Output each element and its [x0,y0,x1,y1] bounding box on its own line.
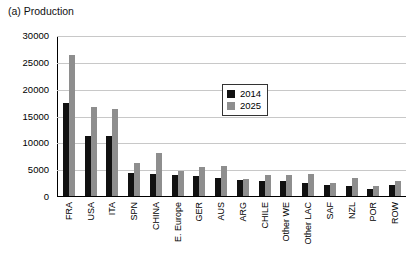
legend-item: 2025 [227,100,261,112]
x-tick-label: USA [86,202,95,221]
bar-group [297,36,319,196]
y-tick-label: 5000 [28,165,49,175]
legend-item: 2014 [227,88,261,100]
x-tick-label: FRA [64,202,73,220]
bar-group [167,36,189,196]
x-tick-label: SAF [325,202,334,220]
y-tick-label: 25000 [23,58,49,68]
x-tick: USA [80,200,102,272]
x-tick-label: GER [195,202,204,222]
x-tick: SPN [123,200,145,272]
bar-row-2025 [395,181,401,196]
bar-group [123,36,145,196]
y-axis-tick-labels: 050001000015000200002500030000 [0,36,53,197]
bar-group [232,36,254,196]
bar-group [384,36,406,196]
legend-swatch-2025 [227,102,235,110]
x-tick: ARG [232,200,254,272]
x-tick: CHILE [254,200,276,272]
production-bar-chart-figure: (a) Production 0500010000150002000025000… [0,0,418,275]
bar-group [210,36,232,196]
x-tick-label: E. Europe [173,202,182,242]
x-tick-label: POR [369,202,378,222]
bar-group [319,36,341,196]
bar-ger-2025 [199,167,205,196]
bar-group [363,36,385,196]
x-tick-label: AUS [217,202,226,221]
x-tick: ROW [384,200,406,272]
y-tick-label: 10000 [23,139,49,149]
x-tick: Other LAC [297,200,319,272]
page-title: (a) Production [8,5,74,17]
bar-group [341,36,363,196]
x-tick-label: ROW [391,202,400,224]
bar-group [80,36,102,196]
y-tick-label: 30000 [23,31,49,41]
bar-group [145,36,167,196]
bar-arg-2025 [243,179,249,196]
bar-saf-2025 [330,183,336,196]
x-axis-tick-labels: FRAUSAITASPNCHINAE. EuropeGERAUSARGCHILE… [58,200,406,272]
bar-e-europe-2025 [178,171,184,196]
bar-group [276,36,298,196]
bar-aus-2025 [221,166,227,196]
x-tick: E. Europe [167,200,189,272]
x-tick-label: CHINA [151,202,160,230]
bar-chile-2025 [265,175,271,196]
plot-area [57,36,406,197]
x-tick-label: ARG [238,202,247,222]
bar-other-lac-2025 [308,174,314,196]
x-tick-label: NZL [347,202,356,219]
x-tick-label: Other WE [282,202,291,242]
bar-other-we-2025 [286,175,292,196]
x-tick-label: Other LAC [304,202,313,245]
bar-groups [58,36,406,196]
x-tick: NZL [341,200,363,272]
x-tick: SAF [319,200,341,272]
x-tick: POR [363,200,385,272]
x-tick: ITA [102,200,124,272]
bar-nzl-2025 [352,178,358,196]
x-axis-line [57,196,406,197]
y-tick-label: 15000 [23,112,49,122]
bar-spn-2025 [134,163,140,196]
bar-group [102,36,124,196]
x-tick-label: ITA [108,202,117,215]
chart-legend: 20142025 [222,84,268,116]
bar-ita-2025 [112,109,118,196]
y-tick-label: 20000 [23,85,49,95]
bar-usa-2025 [91,107,97,196]
x-tick-label: SPN [130,202,139,221]
bar-group [254,36,276,196]
y-tick-label: 0 [44,192,49,202]
bar-por-2025 [373,186,379,196]
legend-label-2025: 2025 [240,101,261,111]
x-tick-label: CHILE [260,202,269,229]
bar-fra-2025 [69,55,75,196]
x-tick: FRA [58,200,80,272]
bar-group [58,36,80,196]
legend-label-2014: 2014 [240,89,261,99]
x-tick: Other WE [276,200,298,272]
legend-swatch-2014 [227,90,235,98]
x-tick: CHINA [145,200,167,272]
x-tick: GER [189,200,211,272]
bar-china-2025 [156,153,162,196]
x-tick: AUS [210,200,232,272]
bar-group [189,36,211,196]
